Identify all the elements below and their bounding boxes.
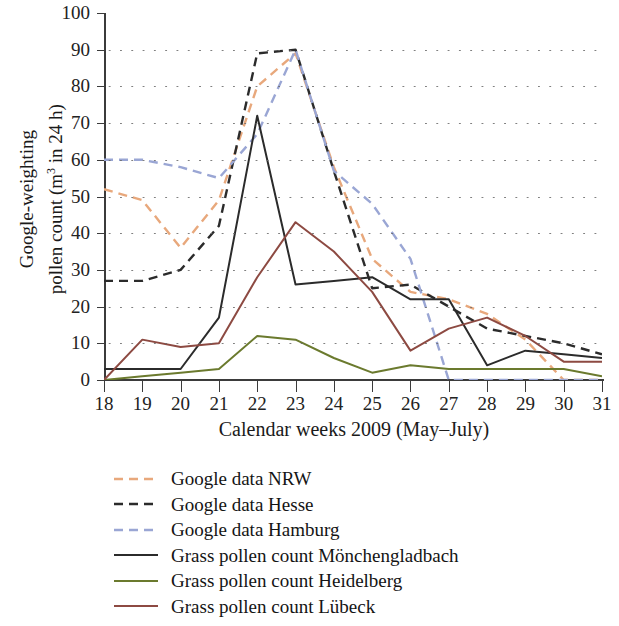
x-axis-tick-label: 27 [429, 394, 469, 414]
x-axis-tick [257, 380, 258, 392]
y-axis-tick-label: 20 [48, 297, 90, 316]
legend-swatch-dashed-icon [114, 472, 158, 486]
legend-swatch-dashed-icon [114, 497, 158, 511]
gridline [104, 123, 602, 124]
chart-figure: Google-weighting pollen count (m3 in 24 … [0, 0, 619, 626]
legend-label: Grass pollen count Lübeck [171, 596, 375, 617]
legend-swatch-dashed-icon [114, 523, 158, 537]
y-axis-tick [97, 123, 104, 124]
gridline [104, 50, 602, 51]
y-axis-tick [97, 50, 104, 51]
legend-item-google-data-hamburg[interactable]: Google data Hamburg [114, 517, 584, 543]
x-axis-tick-label: 26 [390, 394, 430, 414]
x-axis-tick [334, 380, 335, 392]
x-axis-tick [525, 380, 526, 392]
x-axis-tick-label: 24 [314, 394, 354, 414]
x-axis-tick-label: 23 [276, 394, 316, 414]
x-axis-tick-label: 28 [467, 394, 507, 414]
legend-label: Google data Hesse [171, 494, 313, 515]
gridline [104, 86, 602, 87]
x-axis-tick-label: 21 [199, 394, 239, 414]
y-axis-tick-label: 60 [48, 150, 90, 169]
series-line-grass-pollen-count-m-nchengladbach [104, 116, 602, 369]
chart-legend: Google data NRWGoogle data HesseGoogle d… [114, 466, 584, 619]
x-axis-tick [602, 380, 603, 392]
y-axis-tick-label: 50 [48, 187, 90, 206]
x-axis-tick-label: 25 [352, 394, 392, 414]
x-axis-tick [296, 380, 297, 392]
y-axis-tick-label: 0 [48, 370, 90, 389]
y-axis-title-exponent: 3 [44, 168, 58, 174]
legend-label: Grass pollen count Mönchengladbach [171, 545, 459, 566]
x-axis-title: Calendar weeks 2009 (May–July) [104, 418, 604, 441]
gridline [104, 307, 602, 308]
x-axis-tick-label: 20 [161, 394, 201, 414]
legend-swatch-solid-icon [114, 599, 158, 613]
legend-item-google-data-hesse[interactable]: Google data Hesse [114, 492, 584, 518]
x-axis-tick-label: 22 [237, 394, 277, 414]
x-axis-tick-label: 31 [582, 394, 619, 414]
legend-item-grass-pollen-count-heidelberg[interactable]: Grass pollen count Heidelberg [114, 568, 584, 594]
y-axis-tick-label: 70 [48, 113, 90, 132]
x-axis-tick [142, 380, 143, 392]
y-axis-tick-label: 80 [48, 76, 90, 95]
x-axis-tick [564, 380, 565, 392]
legend-item-grass-pollen-count-l-beck[interactable]: Grass pollen count Lübeck [114, 594, 584, 620]
legend-label: Grass pollen count Heidelberg [171, 570, 402, 591]
gridline [104, 233, 602, 234]
gridline [104, 343, 602, 344]
gridline [104, 270, 602, 271]
series-line-google-data-hamburg [104, 50, 602, 380]
y-axis-tick-label: 40 [48, 223, 90, 242]
y-axis-tick [97, 307, 104, 308]
y-axis-tick [97, 380, 104, 381]
y-axis-tick [97, 270, 104, 271]
series-line-google-data-hesse [104, 50, 602, 355]
legend-label: Google data Hamburg [171, 519, 340, 540]
legend-swatch-solid-icon [114, 574, 158, 588]
y-axis-tick [97, 160, 104, 161]
x-axis-tick [449, 380, 450, 392]
y-axis-tick-label: 100 [48, 3, 90, 22]
y-axis-tick [97, 343, 104, 344]
y-axis-tick [97, 233, 104, 234]
y-axis-tick [97, 197, 104, 198]
legend-item-google-data-nrw[interactable]: Google data NRW [114, 466, 584, 492]
series-line-google-data-nrw [104, 53, 602, 380]
y-axis-title-line1: Google-weighting [16, 130, 37, 268]
gridline [104, 197, 602, 198]
x-axis-tick [372, 380, 373, 392]
x-axis-tick [410, 380, 411, 392]
y-axis-tick [97, 86, 104, 87]
x-axis-tick-label: 29 [505, 394, 545, 414]
x-axis-tick [219, 380, 220, 392]
y-axis-tick-label: 10 [48, 333, 90, 352]
x-axis-tick-label: 30 [544, 394, 584, 414]
x-axis-tick [181, 380, 182, 392]
gridline [104, 160, 602, 161]
y-axis-tick-label: 90 [48, 40, 90, 59]
legend-item-grass-pollen-count-m-nchengladbach[interactable]: Grass pollen count Mönchengladbach [114, 543, 584, 569]
x-axis-tick-label: 19 [122, 394, 162, 414]
x-axis-tick [104, 380, 105, 392]
x-axis-tick-label: 18 [84, 394, 124, 414]
y-axis-tick-label: 30 [48, 260, 90, 279]
y-axis-tick [97, 13, 104, 14]
plot-area [104, 13, 602, 380]
legend-label: Google data NRW [171, 468, 311, 489]
x-axis-tick [487, 380, 488, 392]
legend-swatch-solid-icon [114, 548, 158, 562]
